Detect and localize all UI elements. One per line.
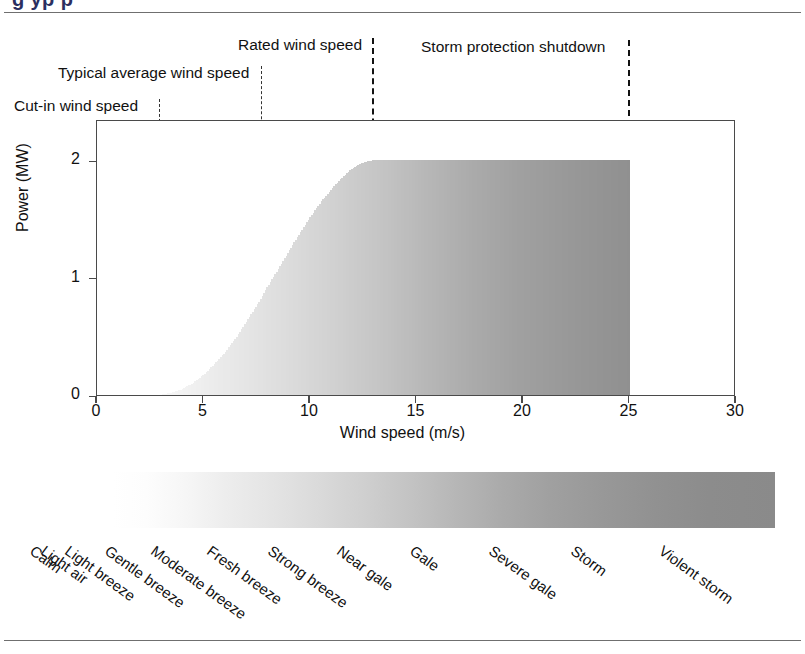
- x-tick-label: 0: [76, 402, 116, 420]
- annotation-label-rated-wind-speed: Rated wind speed: [238, 36, 362, 54]
- x-tick-label: 5: [183, 402, 223, 420]
- beaufort-label-violent-storm: Violent storm: [656, 542, 737, 607]
- plot-frame: [96, 120, 735, 396]
- x-tick-mark: [308, 396, 309, 403]
- y-tick-mark: [89, 161, 96, 162]
- y-tick-mark: [89, 278, 96, 279]
- y-tick-label: 1: [50, 268, 80, 286]
- annotation-label-typical-average-wind-speed: Typical average wind speed: [58, 64, 249, 82]
- beaufort-label-gale: Gale: [407, 542, 443, 574]
- x-tick-label: 20: [502, 402, 542, 420]
- power-curve-slice: [627, 160, 629, 395]
- beaufort-label-severe-gale: Severe gale: [486, 542, 561, 603]
- annotation-label-cut-in-wind-speed: Cut-in wind speed: [14, 97, 138, 115]
- x-tick-mark: [734, 396, 735, 403]
- power-curve-area: [97, 121, 734, 395]
- x-tick-mark: [202, 396, 203, 403]
- beaufort-label-storm: Storm: [568, 542, 610, 579]
- x-axis-label: Wind speed (m/s): [0, 424, 805, 442]
- top-divider: [4, 12, 801, 13]
- y-tick-label: 0: [50, 385, 80, 403]
- x-tick-label: 10: [289, 402, 329, 420]
- annotation-label-storm-protection-shutdown: Storm protection shutdown: [421, 38, 605, 56]
- plot-area: [97, 121, 734, 395]
- bottom-divider: [4, 640, 801, 641]
- x-tick-mark: [415, 396, 416, 403]
- beaufort-colour-bar: [113, 472, 775, 528]
- beaufort-label-group: CalmLight airLight breezeGentle breezeMo…: [0, 528, 805, 638]
- figure-title: g yp p: [12, 0, 73, 11]
- y-tick-label: 2: [50, 150, 80, 168]
- x-tick-mark: [628, 396, 629, 403]
- x-tick-mark: [521, 396, 522, 403]
- x-tick-mark: [95, 396, 96, 403]
- x-tick-label: 30: [715, 402, 755, 420]
- y-axis-label: Power (MW): [14, 143, 32, 232]
- beaufort-label-near-gale: Near gale: [334, 542, 397, 594]
- x-tick-label: 15: [396, 402, 436, 420]
- x-tick-label: 25: [609, 402, 649, 420]
